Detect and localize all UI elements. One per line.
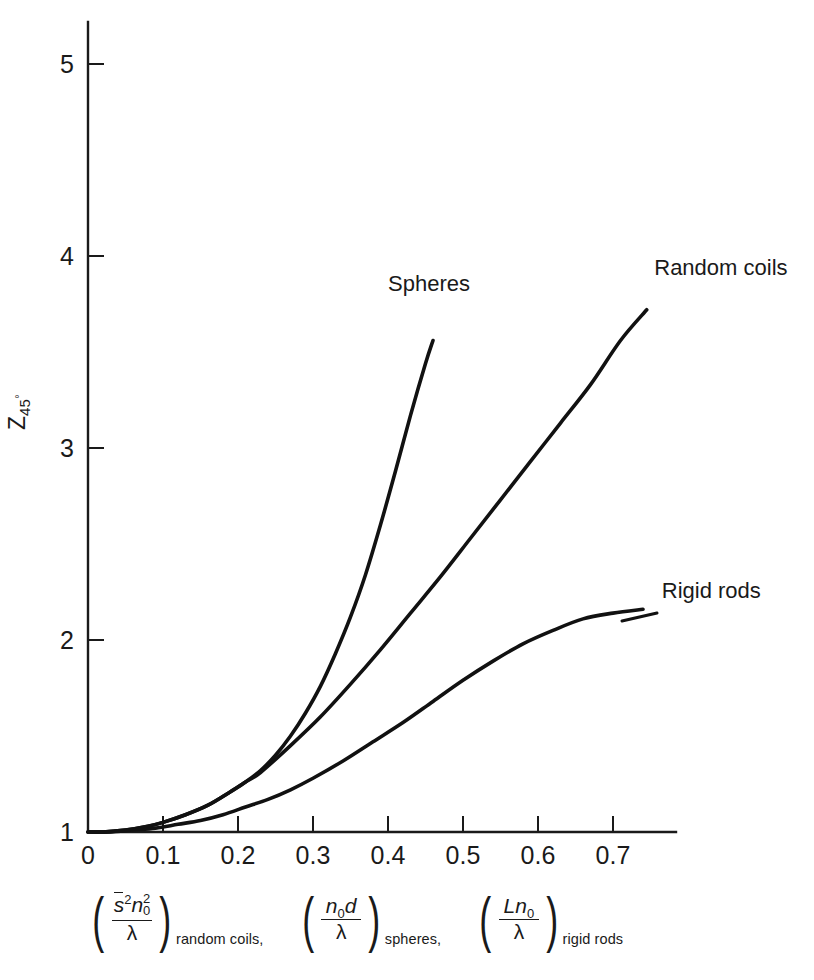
annotation-spheres: Spheres <box>388 271 470 296</box>
x-term-rigid-rods: ( Ln0 λ ) rigid rods <box>475 888 623 950</box>
left-paren-icon: ( <box>480 888 492 950</box>
term-subscript: random coils, <box>176 931 264 950</box>
x-tick-label: 0.3 <box>296 841 331 869</box>
y-tick-label: 5 <box>60 50 74 78</box>
right-paren-icon: ) <box>160 888 172 950</box>
right-paren-icon: ) <box>368 888 380 950</box>
annotation-random-coils: Random coils <box>654 255 787 280</box>
fraction-denominator: λ <box>512 920 527 944</box>
x-tick-label: 0.1 <box>146 841 181 869</box>
right-paren-icon: ) <box>546 888 558 950</box>
y-tick-label: 1 <box>60 818 74 846</box>
y-tick-label: 2 <box>60 626 74 654</box>
fraction-numerator: Ln0 <box>502 895 537 919</box>
y-tick-label: 4 <box>60 242 74 270</box>
x-term-spheres: ( n0d λ ) spheres, <box>298 888 442 950</box>
figure-container: Z45° 12345 00.10.20.30.40.50.60.7 Sphere… <box>0 0 814 980</box>
fraction-denominator: λ <box>125 921 140 945</box>
x-tick-label: 0.4 <box>371 841 406 869</box>
curve-spheres <box>88 340 433 832</box>
y-tick-label: 3 <box>60 434 74 462</box>
fraction-denominator: λ <box>334 920 349 944</box>
fraction-spheres: n0d λ <box>318 895 364 943</box>
x-tick-label: 0.7 <box>596 841 631 869</box>
fraction-numerator: n0d <box>324 895 359 919</box>
x-tick-label: 0.6 <box>521 841 556 869</box>
curve-rigid-rods <box>88 609 643 832</box>
x-term-random-coils: ( s2n20 λ ) random coils, <box>88 888 264 950</box>
fraction-random-coils: s2n20 λ <box>109 894 156 944</box>
rigid-rods-leader-line <box>622 613 657 621</box>
x-axis-title: ( s2n20 λ ) random coils, ( n0d λ ) sphe… <box>88 888 788 974</box>
x-tick-label: 0.2 <box>221 841 256 869</box>
y-axis-ticks: 12345 <box>60 50 104 846</box>
x-tick-label: 0 <box>81 841 95 869</box>
annotation-rigid-rods: Rigid rods <box>662 578 761 603</box>
fraction-numerator: s2n20 <box>112 894 153 920</box>
term-subscript: rigid rods <box>563 931 624 950</box>
left-paren-icon: ( <box>302 888 314 950</box>
left-paren-icon: ( <box>92 888 104 950</box>
fraction-rigid-rods: Ln0 λ <box>496 895 542 943</box>
x-tick-label: 0.5 <box>446 841 481 869</box>
term-subscript: spheres, <box>385 931 441 950</box>
chart-plot: 12345 00.10.20.30.40.50.60.7 Spheres Ran… <box>0 0 814 980</box>
